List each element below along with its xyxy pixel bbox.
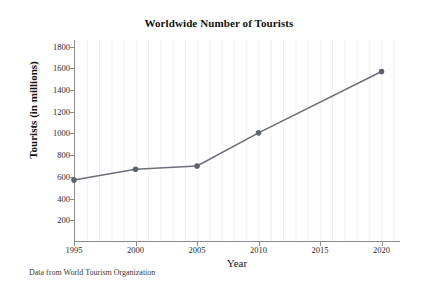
y-tick-mark (70, 155, 74, 156)
y-tick-label: 200 (28, 215, 70, 225)
y-tick-mark (70, 112, 74, 113)
source-caption: Data from World Tourism Organization (29, 268, 155, 277)
x-tick-mark (259, 242, 260, 246)
y-tick-label: 600 (28, 172, 70, 182)
y-tick-label: 400 (28, 194, 70, 204)
plot-area (74, 40, 400, 242)
x-tick-label: 2005 (174, 245, 220, 255)
y-tick-label: 1600 (28, 63, 70, 73)
y-tick-mark (70, 68, 74, 69)
x-tick-mark (74, 242, 75, 246)
x-tick-mark (382, 242, 383, 246)
y-tick-label: 800 (28, 150, 70, 160)
x-tick-mark (320, 242, 321, 246)
y-tick-label: 1000 (28, 128, 70, 138)
x-tick-label: 2020 (359, 245, 405, 255)
x-tick-mark (136, 242, 137, 246)
y-tick-mark (70, 47, 74, 48)
y-tick-mark (70, 220, 74, 221)
y-tick-mark (70, 90, 74, 91)
x-tick-label: 2015 (297, 245, 343, 255)
x-tick-label: 1995 (51, 245, 97, 255)
gridlines (75, 40, 400, 241)
y-tick-mark (70, 177, 74, 178)
y-tick-label: 1200 (28, 107, 70, 117)
chart-title: Worldwide Number of Tourists (0, 17, 438, 29)
x-tick-mark (197, 242, 198, 246)
y-tick-label: 1400 (28, 85, 70, 95)
y-tick-mark (70, 133, 74, 134)
chart-figure: Worldwide Number of Tourists Tourists (i… (0, 0, 438, 294)
y-tick-label: 1800 (28, 42, 70, 52)
x-tick-label: 2000 (113, 245, 159, 255)
y-tick-mark (70, 199, 74, 200)
x-tick-label: 2010 (236, 245, 282, 255)
